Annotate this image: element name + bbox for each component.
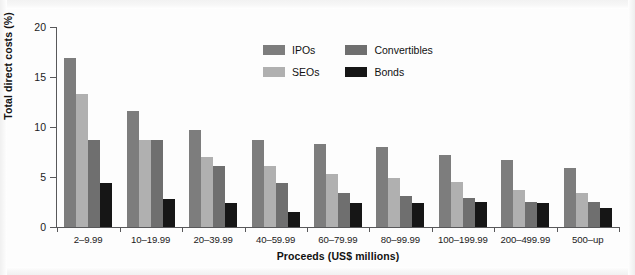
x-axis-tick-labels: 2–9.9910–19.9920–39.9940–59.9960–79.9980… [57, 234, 619, 245]
bar-convertibles[interactable] [151, 140, 163, 227]
bar-group [494, 27, 556, 227]
bar-ipos[interactable] [564, 168, 576, 227]
bar-seos[interactable] [513, 190, 525, 227]
legend-swatch-ipos [263, 45, 285, 55]
x-axis-line [56, 227, 619, 228]
bar-ipos[interactable] [189, 130, 201, 227]
bar-group [432, 27, 494, 227]
y-axis-tick-label: 20 [28, 22, 46, 33]
x-axis-tick [369, 227, 370, 232]
x-axis-tick-label: 2–9.99 [57, 234, 119, 245]
bar-ipos[interactable] [376, 147, 388, 227]
bar-seos[interactable] [201, 157, 213, 227]
bar-seos[interactable] [139, 140, 151, 227]
x-axis-tick [619, 227, 620, 232]
page-edge-right [628, 0, 635, 275]
page-edge-top [0, 0, 635, 9]
bar-ipos[interactable] [127, 111, 139, 227]
chart-legend: IPOsConvertiblesSEOsBonds [263, 41, 433, 81]
bar-seos[interactable] [388, 178, 400, 227]
bar-convertibles[interactable] [213, 166, 225, 227]
bar-bonds[interactable] [600, 208, 612, 227]
x-axis-tick [494, 227, 495, 232]
y-axis-tick [50, 27, 56, 28]
y-axis-tick [50, 127, 56, 128]
bar-group [119, 27, 181, 227]
x-axis-tick [307, 227, 308, 232]
y-axis-tick-label: 15 [28, 72, 46, 83]
bar-bonds[interactable] [350, 203, 362, 227]
bar-seos[interactable] [76, 94, 88, 227]
bar-convertibles[interactable] [338, 193, 350, 227]
legend-swatch-convertibles [345, 45, 367, 55]
x-axis-title: Proceeds (US$ millions) [57, 250, 619, 262]
legend-item-ipos[interactable]: IPOs [263, 41, 319, 59]
bar-bonds[interactable] [537, 203, 549, 227]
y-axis-title: Total direct costs (%) [2, 0, 14, 141]
bar-group [557, 27, 619, 227]
y-axis-tick-label: 10 [28, 122, 46, 133]
bar-convertibles[interactable] [588, 202, 600, 227]
bar-convertibles[interactable] [276, 183, 288, 227]
x-axis-tick-label: 10–19.99 [119, 234, 181, 245]
x-axis-tick [557, 227, 558, 232]
x-axis-tick [245, 227, 246, 232]
legend-label: Bonds [374, 66, 404, 78]
y-axis-tick-label: 0 [28, 222, 46, 233]
bar-bonds[interactable] [100, 183, 112, 227]
bar-group [182, 27, 244, 227]
bar-ipos[interactable] [314, 144, 326, 227]
bar-group [57, 27, 119, 227]
legend-item-convertibles[interactable]: Convertibles [345, 41, 432, 59]
bar-bonds[interactable] [475, 202, 487, 227]
bar-bonds[interactable] [288, 212, 300, 227]
x-axis-tick-label: 40–59.99 [244, 234, 306, 245]
legend-swatch-bonds [345, 67, 367, 77]
bar-seos[interactable] [576, 193, 588, 227]
legend-item-seos[interactable]: SEOs [263, 63, 319, 81]
legend-label: IPOs [292, 44, 315, 56]
x-axis-tick-label: 20–39.99 [182, 234, 244, 245]
bar-ipos[interactable] [501, 160, 513, 227]
x-axis-tick-label: 200–499.99 [494, 234, 556, 245]
bar-seos[interactable] [264, 166, 276, 227]
chart-figure: 05101520 Total direct costs (%) 2–9.9910… [0, 0, 635, 275]
x-axis-tick-label: 80–99.99 [369, 234, 431, 245]
bar-convertibles[interactable] [463, 198, 475, 227]
bar-seos[interactable] [326, 174, 338, 227]
x-axis-tick [432, 227, 433, 232]
bar-bonds[interactable] [225, 203, 237, 227]
bar-ipos[interactable] [64, 58, 76, 227]
y-axis-tick [50, 227, 56, 228]
x-axis-tick [120, 227, 121, 232]
bar-convertibles[interactable] [88, 140, 100, 227]
bar-ipos[interactable] [439, 155, 451, 227]
y-axis-tick-label: 5 [28, 172, 46, 183]
page-edge-bottom [0, 267, 635, 275]
bar-bonds[interactable] [163, 199, 175, 227]
x-axis-tick-label: 100–199.99 [432, 234, 494, 245]
x-axis-tick-label: 500–up [557, 234, 619, 245]
x-axis-tick [57, 227, 58, 232]
y-axis-tick [50, 177, 56, 178]
bar-ipos[interactable] [252, 140, 264, 227]
legend-label: SEOs [292, 66, 319, 78]
legend-label: Convertibles [374, 44, 432, 56]
legend-item-bonds[interactable]: Bonds [345, 63, 432, 81]
x-axis-tick-label: 60–79.99 [307, 234, 369, 245]
bar-bonds[interactable] [412, 203, 424, 227]
bar-seos[interactable] [451, 182, 463, 227]
x-axis-tick [182, 227, 183, 232]
y-axis-tick [50, 77, 56, 78]
bar-convertibles[interactable] [525, 202, 537, 227]
bar-convertibles[interactable] [400, 196, 412, 227]
y-axis-title-wrapper: Total direct costs (%) [2, 0, 18, 141]
legend-swatch-seos [263, 67, 285, 77]
